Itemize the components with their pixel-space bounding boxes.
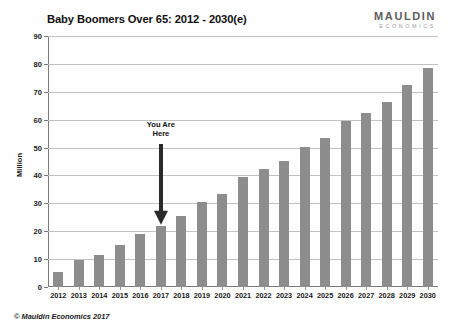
brand-subtitle: ECONOMICS — [374, 24, 436, 29]
bar[interactable] — [259, 169, 269, 287]
x-tick-label: 2020 — [212, 291, 233, 300]
bar[interactable] — [176, 216, 186, 287]
bar-slot[interactable] — [89, 36, 110, 287]
x-tick-mark — [428, 287, 429, 290]
bar-slot[interactable] — [48, 36, 69, 287]
x-tick-label: 2018 — [171, 291, 192, 300]
x-tick-mark — [202, 287, 203, 290]
bar[interactable] — [279, 161, 289, 287]
y-tick-label: 50 — [34, 143, 42, 152]
bar-slot[interactable] — [253, 36, 274, 287]
copyright-notice: © Mauldin Economics 2017 — [14, 312, 109, 321]
x-tick-mark — [222, 287, 223, 290]
bar[interactable] — [115, 245, 125, 287]
x-tick-label: 2022 — [253, 291, 274, 300]
bar-slot[interactable] — [130, 36, 151, 287]
chart-title: Baby Boomers Over 65: 2012 - 2030(e) — [47, 13, 247, 25]
x-tick-label: 2019 — [192, 291, 213, 300]
y-tick-label: 80 — [34, 59, 42, 68]
bar[interactable] — [197, 202, 207, 287]
bar[interactable] — [94, 255, 104, 287]
x-tick-label: 2028 — [376, 291, 397, 300]
bar-slot[interactable] — [233, 36, 254, 287]
bar-slot[interactable] — [69, 36, 90, 287]
y-tick-mark — [44, 287, 48, 288]
chart-figure: Baby Boomers Over 65: 2012 - 2030(e) MAU… — [0, 0, 450, 330]
plot-area: 0102030405060708090 20122013201420152016… — [48, 36, 438, 287]
y-tick-label: 0 — [38, 283, 42, 292]
bar[interactable] — [361, 113, 371, 287]
x-tick-mark — [161, 287, 162, 290]
y-tick-label: 40 — [34, 171, 42, 180]
x-tick-label: 2021 — [233, 291, 254, 300]
bar[interactable] — [156, 226, 166, 287]
bar-slot[interactable] — [274, 36, 295, 287]
x-tick-label: 2012 — [48, 291, 69, 300]
y-tick-label: 70 — [34, 87, 42, 96]
x-tick-mark — [366, 287, 367, 290]
bar-slot[interactable] — [335, 36, 356, 287]
bar-slot[interactable] — [151, 36, 172, 287]
bar-slot[interactable] — [212, 36, 233, 287]
bar[interactable] — [320, 138, 330, 287]
bar-slot[interactable] — [294, 36, 315, 287]
brand-name: MAULDIN — [374, 11, 436, 22]
bar[interactable] — [382, 102, 392, 287]
x-tick-mark — [140, 287, 141, 290]
bar[interactable] — [53, 272, 63, 287]
x-tick-label: 2014 — [89, 291, 110, 300]
bar[interactable] — [423, 68, 433, 287]
bar-slot[interactable] — [397, 36, 418, 287]
x-tick-mark — [181, 287, 182, 290]
x-tick-label: 2016 — [130, 291, 151, 300]
x-tick-mark — [284, 287, 285, 290]
bar[interactable] — [300, 147, 310, 287]
x-tick-mark — [99, 287, 100, 290]
bar-slot[interactable] — [417, 36, 438, 287]
x-tick-label: 2013 — [69, 291, 90, 300]
x-tick-mark — [264, 287, 265, 290]
y-tick-label: 10 — [34, 255, 42, 264]
y-tick-label: 20 — [34, 227, 42, 236]
x-tick-label: 2025 — [315, 291, 336, 300]
x-tick-mark — [387, 287, 388, 290]
bar-slot[interactable] — [192, 36, 213, 287]
x-tick-label: 2024 — [294, 291, 315, 300]
mauldin-economics-logo: MAULDIN ECONOMICS — [374, 11, 436, 29]
x-tick-mark — [305, 287, 306, 290]
x-tick-label: 2026 — [335, 291, 356, 300]
x-tick-mark — [325, 287, 326, 290]
x-tick-label: 2027 — [356, 291, 377, 300]
bar-slot[interactable] — [315, 36, 336, 287]
bar-slot[interactable] — [110, 36, 131, 287]
x-tick-label: 2030 — [417, 291, 438, 300]
y-axis-title: Million — [15, 153, 24, 177]
x-tick-mark — [407, 287, 408, 290]
x-tick-label: 2023 — [274, 291, 295, 300]
y-tick-label: 90 — [34, 32, 42, 41]
bar[interactable] — [238, 177, 248, 287]
x-tick-mark — [58, 287, 59, 290]
x-tick-mark — [120, 287, 121, 290]
x-tick-mark — [79, 287, 80, 290]
x-tick-label: 2029 — [397, 291, 418, 300]
bar[interactable] — [74, 260, 84, 287]
bar[interactable] — [217, 194, 227, 287]
x-tick-label: 2017 — [151, 291, 172, 300]
bar-slot[interactable] — [171, 36, 192, 287]
x-tick-label: 2015 — [110, 291, 131, 300]
x-tick-mark — [346, 287, 347, 290]
bar-slot[interactable] — [376, 36, 397, 287]
bar-slot[interactable] — [356, 36, 377, 287]
y-tick-label: 60 — [34, 115, 42, 124]
y-tick-label: 30 — [34, 199, 42, 208]
bar[interactable] — [135, 234, 145, 287]
bar[interactable] — [402, 85, 412, 287]
x-tick-mark — [243, 287, 244, 290]
bar[interactable] — [341, 121, 351, 287]
